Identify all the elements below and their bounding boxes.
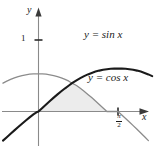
y-axis-label: y: [27, 5, 31, 15]
figure-container: y = sin x y = cos x y x 1 π 2: [0, 0, 157, 152]
fraction-denominator: 2: [116, 122, 122, 129]
plot-area: [0, 0, 157, 152]
y-axis-arrowhead: [35, 8, 41, 17]
cos-curve-label: y = cos x: [88, 72, 128, 83]
sin-curve-label: y = sin x: [84, 29, 122, 40]
fraction-pi-over-two: π 2: [116, 113, 122, 129]
y-tick-label-one: 1: [21, 34, 26, 43]
x-tick-label-pi-over-two: π 2: [112, 113, 126, 129]
x-axis-label: x: [142, 112, 146, 122]
fraction-numerator: π: [116, 113, 122, 120]
